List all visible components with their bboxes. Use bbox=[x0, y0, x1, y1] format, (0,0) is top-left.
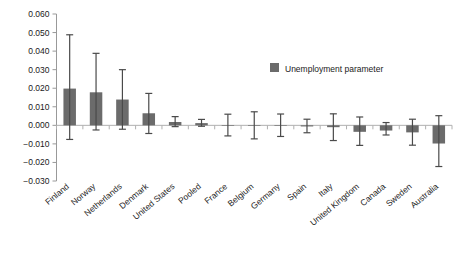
y-axis-tick-label: −0.030 bbox=[23, 176, 50, 186]
y-axis-tick-label: 0.050 bbox=[28, 28, 50, 38]
y-axis-tick-label: 0.040 bbox=[28, 46, 50, 56]
y-axis-tick-label: 0.000 bbox=[28, 120, 50, 130]
chart-container: 0.0600.0500.0400.0300.0200.0100.000−0.01… bbox=[0, 0, 466, 267]
x-axis-tick-label: Australia bbox=[408, 181, 440, 210]
y-axis-tick-label: 0.010 bbox=[28, 102, 50, 112]
unemployment-parameter-bar-chart: 0.0600.0500.0400.0300.0200.0100.000−0.01… bbox=[0, 0, 466, 267]
x-axis-tick-label: Germany bbox=[249, 181, 283, 212]
x-axis-tick-label: Pooled bbox=[176, 181, 203, 206]
x-axis-tick-label: United Kingdom bbox=[308, 181, 361, 228]
legend-swatch bbox=[270, 63, 279, 72]
x-axis-tick-label: Italy bbox=[316, 181, 335, 199]
y-axis-tick-label: −0.010 bbox=[23, 139, 50, 149]
y-axis-tick-label: 0.030 bbox=[28, 65, 50, 75]
legend: Unemployment parameter bbox=[270, 63, 383, 74]
legend-label: Unemployment parameter bbox=[285, 64, 383, 74]
y-axis-tick-label: −0.020 bbox=[23, 157, 50, 167]
y-axis-tick-label: 0.060 bbox=[28, 9, 50, 19]
y-axis-tick-label: 0.020 bbox=[28, 83, 50, 93]
x-axis-tick-label: Spain bbox=[285, 181, 308, 203]
x-axis-tick-label: Canada bbox=[358, 181, 387, 208]
